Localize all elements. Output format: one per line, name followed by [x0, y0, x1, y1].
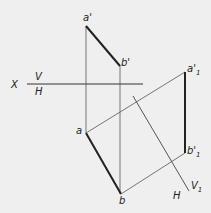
label-a: a — [76, 126, 82, 136]
label-b1-sub: 1 — [196, 151, 200, 159]
label-a-prime: a' — [83, 13, 92, 23]
label-x-axis: X — [11, 80, 18, 90]
diagram-canvas: a' b' X V H a b a'1 b'1 H V1 — [0, 0, 211, 213]
projection-lines — [0, 0, 211, 213]
label-v1-plane: V1 — [191, 181, 202, 195]
segment-a-b — [86, 133, 121, 194]
label-b1-prime: b'1 — [187, 146, 201, 160]
label-h-plane-2: H — [173, 191, 181, 201]
segment-a-prime-b-prime — [86, 26, 120, 66]
h-v1-axis-line — [133, 96, 189, 191]
label-v1-sub: 1 — [198, 186, 202, 194]
label-b: b — [119, 196, 125, 206]
link-b-b1prime — [121, 153, 185, 194]
label-a1-sub: 1 — [196, 69, 200, 77]
label-v1-text: V — [191, 180, 198, 191]
label-v-plane: V — [35, 72, 42, 82]
label-b1-prime-text: b' — [187, 145, 196, 156]
label-b-prime: b' — [121, 58, 130, 68]
label-a1-prime-text: a' — [187, 63, 196, 74]
label-a1-prime: a'1 — [187, 64, 200, 78]
link-a-a1prime — [86, 72, 185, 133]
label-h-plane: H — [35, 87, 43, 97]
